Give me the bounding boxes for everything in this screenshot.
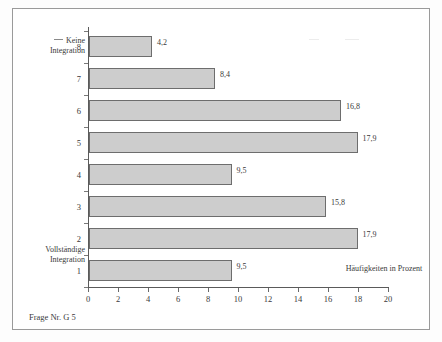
y-tick-mark	[84, 223, 88, 224]
x-tick-label: 0	[78, 294, 98, 304]
y-tick-label: 6	[67, 106, 81, 116]
x-tick-label: 2	[108, 294, 128, 304]
bar-value-label: 9,5	[237, 166, 247, 175]
y-tick-mark	[84, 63, 88, 64]
x-tick-label: 18	[348, 294, 368, 304]
source-note: Frage Nr. G 5	[29, 312, 76, 322]
bar[interactable]	[89, 228, 358, 249]
bar-row: 9,5	[89, 159, 389, 191]
bar-row: 9,5	[89, 255, 389, 287]
scale-endpoint-low-label: Vollständige Integration	[45, 245, 85, 264]
y-tick-mark	[84, 95, 88, 96]
x-tick-mark	[118, 288, 119, 292]
x-tick-mark	[358, 288, 359, 292]
bar-value-label: 15,8	[331, 198, 345, 207]
y-tick-label: 5	[67, 138, 81, 148]
bar-value-label: 8,4	[220, 70, 230, 79]
x-tick-mark	[88, 288, 89, 292]
y-tick-label: 3	[67, 202, 81, 212]
bar-value-label: 17,9	[363, 230, 377, 239]
y-tick-label: 7	[67, 74, 81, 84]
x-tick-label: 12	[258, 294, 278, 304]
bar[interactable]	[89, 132, 358, 153]
bar[interactable]	[89, 260, 232, 281]
bar-row: 17,9	[89, 223, 389, 255]
x-tick-mark	[148, 288, 149, 292]
plot-area: 4,28,416,817,99,515,817,99,5 87654321 02…	[88, 31, 388, 287]
x-tick-label: 16	[318, 294, 338, 304]
bar[interactable]	[89, 68, 215, 89]
x-tick-label: 20	[378, 294, 398, 304]
bar[interactable]	[89, 100, 341, 121]
x-tick-label: 8	[198, 294, 218, 304]
x-tick-label: 4	[138, 294, 158, 304]
y-tick-label: 1	[67, 266, 81, 276]
x-tick-mark	[208, 288, 209, 292]
y-tick-mark	[84, 127, 88, 128]
scale-endpoint-low: Vollständige Integration	[19, 245, 85, 265]
x-tick-label: 10	[228, 294, 248, 304]
bar-value-label: 9,5	[237, 262, 247, 271]
bar-value-label: 4,2	[157, 38, 167, 47]
bar[interactable]	[89, 164, 232, 185]
bar-row: 15,8	[89, 191, 389, 223]
bar-row: 4,2	[89, 31, 389, 63]
x-tick-mark	[388, 288, 389, 292]
x-tick-label: 6	[168, 294, 188, 304]
x-tick-label: 14	[288, 294, 308, 304]
x-tick-mark	[298, 288, 299, 292]
y-tick-mark	[84, 159, 88, 160]
bar-row: 8,4	[89, 63, 389, 95]
bar-row: 16,8	[89, 95, 389, 127]
bar-value-label: 16,8	[346, 102, 360, 111]
figure-frame: Keine Integration Vollständige Integrati…	[12, 8, 430, 330]
y-tick-mark	[84, 191, 88, 192]
x-tick-mark	[178, 288, 179, 292]
y-tick-mark	[84, 255, 88, 256]
bar-row: 17,9	[89, 127, 389, 159]
x-tick-mark	[328, 288, 329, 292]
bar[interactable]	[89, 36, 152, 57]
y-tick-label: 4	[67, 170, 81, 180]
x-tick-mark	[238, 288, 239, 292]
y-tick-label: 8	[67, 42, 81, 52]
leader-dash-icon	[54, 39, 63, 40]
scanned-page: Keine Integration Vollständige Integrati…	[0, 0, 442, 342]
x-tick-mark	[268, 288, 269, 292]
y-tick-mark	[84, 31, 88, 32]
y-tick-label: 2	[67, 234, 81, 244]
bar-value-label: 17,9	[363, 134, 377, 143]
bar[interactable]	[89, 196, 326, 217]
